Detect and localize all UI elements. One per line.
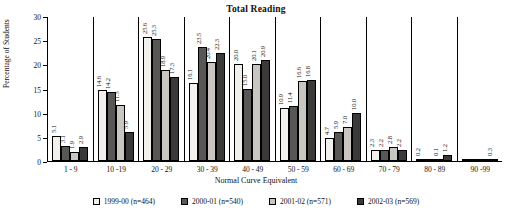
legend-item[interactable]: 1999-00 (n=464) — [93, 197, 155, 206]
y-tick-label: 30 — [34, 13, 42, 22]
bar[interactable] — [480, 159, 489, 161]
bar[interactable] — [471, 159, 480, 161]
x-tick-label: 70 - 79 — [367, 165, 413, 174]
bar[interactable]: 1.9 — [70, 152, 79, 161]
bar-slot: 10.0 — [352, 17, 361, 161]
bar[interactable]: 15.0 — [243, 89, 252, 162]
bar[interactable]: 20.1 — [252, 64, 261, 161]
x-tick-label: 20 - 29 — [139, 165, 185, 174]
bar[interactable]: 2.9 — [79, 147, 88, 161]
bar-slot: 25.3 — [152, 17, 161, 161]
legend-label: 1999-00 (n=464) — [104, 197, 155, 206]
y-tick-label: 10 — [34, 109, 42, 118]
bar-value-label: 25.6 — [141, 23, 148, 34]
bar[interactable] — [462, 159, 471, 161]
legend-swatch-icon — [181, 198, 188, 205]
bar[interactable]: 14.2 — [107, 92, 116, 161]
bar[interactable]: 25.6 — [143, 37, 152, 161]
bar-value-label: 20.9 — [259, 46, 266, 57]
bar-value-label: 11.4 — [286, 92, 293, 103]
plot-area: 051015202530 5.13.11.92.914.614.211.55.9… — [47, 17, 502, 162]
chart-title: Total Reading — [0, 4, 512, 14]
bar[interactable]: 22.3 — [216, 53, 225, 161]
x-tick-label: 60 - 69 — [321, 165, 367, 174]
bar-group: 20.015.020.120.9 — [230, 17, 276, 161]
bar[interactable]: 11.5 — [116, 105, 125, 161]
bar-value-label: 2.8 — [386, 137, 393, 145]
bar[interactable]: 20.9 — [261, 60, 270, 161]
bar[interactable]: 14.6 — [98, 90, 107, 161]
bar[interactable] — [425, 159, 434, 161]
bar-value-label: 5.9 — [122, 122, 129, 130]
bar[interactable]: 2.3 — [371, 150, 380, 161]
bar-slot — [425, 17, 434, 161]
bar-group: 0.20.11.2 — [412, 17, 458, 161]
y-tick — [43, 90, 47, 91]
bar-slot: 22.3 — [216, 17, 225, 161]
bar-slot: 20.1 — [252, 17, 261, 161]
bar[interactable]: 11.4 — [289, 106, 298, 161]
bar-slot: 0.3 — [489, 17, 498, 161]
bar-slot: 23.5 — [198, 17, 207, 161]
bar-slot: 14.2 — [107, 17, 116, 161]
bar[interactable]: 20.4 — [207, 62, 216, 161]
legend-item[interactable]: 2002-03 (n=569) — [357, 197, 419, 206]
bar-value-label: 0.2 — [414, 148, 421, 156]
bar[interactable]: 2.2 — [398, 150, 407, 161]
bar[interactable]: 4.7 — [325, 138, 334, 161]
legend-item[interactable]: 2000-01 (n=540) — [181, 197, 243, 206]
bar[interactable]: 1.2 — [443, 155, 452, 161]
bar-value-label: 14.6 — [95, 76, 102, 87]
y-tick — [43, 17, 47, 18]
bar-slot: 11.4 — [289, 17, 298, 161]
legend-swatch-icon — [269, 198, 276, 205]
legend-label: 2001-02 (n=571) — [280, 197, 331, 206]
y-tick — [43, 65, 47, 66]
bar-value-label: 20.1 — [250, 50, 257, 61]
y-tick — [43, 138, 47, 139]
bar-group: 16.123.520.422.3 — [185, 17, 231, 161]
bar-slot: 4.7 — [325, 17, 334, 161]
bar[interactable]: 5.9 — [334, 132, 343, 161]
bar[interactable]: 10.0 — [352, 113, 361, 161]
bar-slot: 0.2 — [416, 17, 425, 161]
bar[interactable]: 5.9 — [125, 132, 134, 161]
bar[interactable]: 16.1 — [189, 83, 198, 161]
bar[interactable]: 17.3 — [170, 77, 179, 161]
x-axis-line — [47, 161, 502, 162]
y-tick-label: 20 — [34, 61, 42, 70]
chart-legend: 1999-00 (n=464)2000-01 (n=540)2001-02 (n… — [0, 197, 512, 206]
x-tick-label: 90 -99 — [458, 165, 504, 174]
x-tick-label: 30 - 39 — [185, 165, 231, 174]
bar[interactable]: 23.5 — [198, 47, 207, 161]
bar-value-label: 2.2 — [377, 140, 384, 148]
bar-value-label: 5.1 — [50, 126, 57, 134]
bar[interactable]: 2.2 — [380, 150, 389, 161]
bar[interactable]: 0.3 — [489, 159, 498, 161]
bar[interactable]: 16.8 — [307, 80, 316, 161]
legend-item[interactable]: 2001-02 (n=571) — [269, 197, 331, 206]
y-tick — [43, 114, 47, 115]
bar-group: 2.32.22.82.2 — [367, 17, 413, 161]
bar-value-label: 5.9 — [332, 122, 339, 130]
bar-value-label: 14.2 — [104, 78, 111, 89]
bar-value-label: 25.3 — [150, 25, 157, 36]
bar-slot: 3.1 — [61, 17, 70, 161]
bar[interactable]: 10.9 — [280, 108, 289, 161]
bar-value-label: 16.6 — [295, 67, 302, 78]
chart-container: Total Reading Percentage of Students 051… — [0, 0, 512, 218]
bar-slot: 0.1 — [434, 17, 443, 161]
bar-value-label: 22.3 — [213, 39, 220, 50]
bar[interactable]: 16.6 — [298, 81, 307, 161]
bar[interactable]: 18.9 — [161, 70, 170, 161]
bar[interactable]: 7.0 — [343, 127, 352, 161]
bar-slot: 7.0 — [343, 17, 352, 161]
bar[interactable]: 2.8 — [389, 147, 398, 161]
bar-slot: 5.9 — [334, 17, 343, 161]
bar-slot: 20.0 — [234, 17, 243, 161]
bar-value-label: 1.2 — [441, 144, 448, 152]
bar-groups: 5.13.11.92.914.614.211.55.925.625.318.91… — [48, 17, 502, 161]
bar[interactable]: 0.1 — [434, 159, 443, 161]
bar-slot: 16.6 — [298, 17, 307, 161]
bar[interactable]: 0.2 — [416, 159, 425, 161]
